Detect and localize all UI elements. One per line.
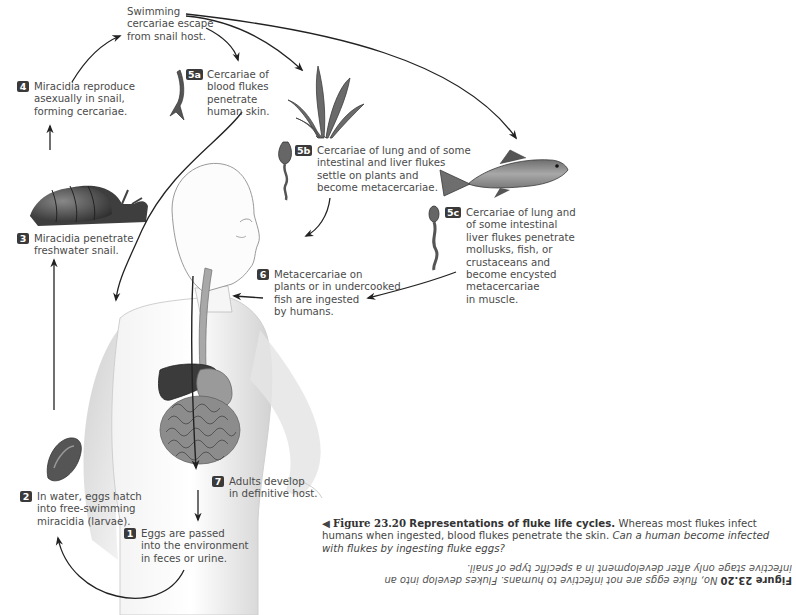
label-line: plants or in undercooked: [274, 281, 401, 293]
step-badge-7: 7: [212, 476, 224, 487]
step-badge-5c: 5c: [445, 207, 461, 218]
blood-fluke-cercaria-illustration: [170, 70, 184, 120]
answer-label: Figure 23.20: [721, 575, 792, 586]
label-line: forming cercariae.: [34, 106, 135, 118]
label-line: Miracidia penetrate: [34, 233, 133, 245]
label-line: In water, eggs hatch: [37, 491, 142, 503]
label-step-2: 2 In water, eggs hatch into free-swimmin…: [37, 491, 142, 528]
caption-arrow-icon: ◀: [322, 518, 330, 529]
label-step-5b: 5b Cercariae of lung and of some intesti…: [317, 145, 471, 195]
label-line: Cercariae of lung and: [466, 207, 576, 219]
figure-caption: ◀ Figure 23.20 Representations of fluke …: [322, 517, 792, 555]
label-line: fish are ingested: [274, 294, 401, 306]
muscle-fluke-cercaria-illustration: [429, 206, 439, 270]
label-line: penetrate: [207, 94, 270, 106]
label-line: liver flukes penetrate: [466, 232, 576, 244]
aquatic-plant-illustration: [288, 66, 364, 138]
label-line: Eggs are passed: [141, 528, 249, 540]
label-step-5c: 5c Cercariae of lung and of some intesti…: [466, 207, 576, 306]
upside-down-answer: Figure 23.20 No, fluke eggs are not infe…: [380, 562, 792, 586]
label-line: in feces or urine.: [141, 553, 249, 565]
label-line: metacercariae: [466, 281, 576, 293]
label-line: become metacercariae.: [317, 182, 471, 194]
snail-illustration: [30, 186, 148, 226]
label-step-4: 4 Miracidia reproduce asexually in snail…: [34, 81, 135, 118]
label-line: Swimming: [127, 6, 214, 18]
fluke-life-cycle-diagram: Swimming cercariae escape from snail hos…: [0, 0, 796, 615]
label-line: Cercariae of: [207, 69, 270, 81]
step-badge-1: 1: [124, 528, 136, 539]
label-line: miracidia (larvae).: [37, 516, 142, 528]
label-line: intestinal and liver flukes: [317, 157, 471, 169]
label-line: of some intestinal: [466, 219, 576, 231]
label-line: in definitive host.: [229, 488, 318, 500]
label-line: freshwater snail.: [34, 245, 133, 257]
step-badge-2: 2: [20, 491, 32, 502]
figure-number: Figure 23.20: [333, 517, 406, 529]
fluke-egg-illustration: [47, 438, 81, 481]
label-line: Cercariae of lung and of some: [317, 145, 471, 157]
step-badge-3: 3: [17, 233, 29, 244]
label-line: become encysted: [466, 269, 576, 281]
label-step-3: 3 Miracidia penetrate freshwater snail.: [34, 233, 133, 258]
step-badge-5a: 5a: [186, 69, 203, 80]
label-line: in muscle.: [466, 294, 576, 306]
label-line: crustaceans and: [466, 257, 576, 269]
label-line: from snail host.: [127, 31, 214, 43]
step-badge-5b: 5b: [295, 145, 312, 156]
label-line: into the environment: [141, 540, 249, 552]
figure-title: Representations of fluke life cycles.: [409, 518, 615, 529]
label-swimming-cercariae: Swimming cercariae escape from snail hos…: [127, 6, 214, 43]
step-badge-4: 4: [17, 81, 29, 92]
label-line: Adults develop: [229, 476, 318, 488]
label-line: human skin.: [207, 106, 270, 118]
label-line: Miracidia reproduce: [34, 81, 135, 93]
label-step-1: 1 Eggs are passed into the environment i…: [141, 528, 249, 565]
label-line: by humans.: [274, 306, 401, 318]
label-line: Metacercariae on: [274, 269, 401, 281]
label-line: mollusks, fish, or: [466, 244, 576, 256]
label-line: cercariae escape: [127, 18, 214, 30]
label-line: settle on plants and: [317, 170, 471, 182]
label-line: asexually in snail,: [34, 93, 135, 105]
label-step-5a: 5a Cercariae of blood flukes penetrate h…: [207, 69, 270, 119]
label-step-6: 6 Metacercariae on plants or in undercoo…: [274, 269, 401, 319]
step-badge-6: 6: [257, 269, 269, 280]
label-step-7: 7 Adults develop in definitive host.: [229, 476, 318, 501]
intestinal-fluke-cercaria-illustration: [279, 142, 292, 200]
label-line: blood flukes: [207, 81, 270, 93]
label-line: into free-swimming: [37, 503, 142, 515]
